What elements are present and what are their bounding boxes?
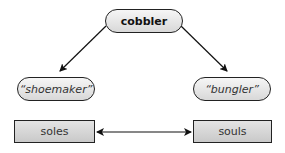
node-shoemaker-label: “shoemaker” <box>20 83 93 96</box>
arrow-cobbler-to-bungler <box>181 26 227 71</box>
node-soles-label: soles <box>40 125 68 138</box>
node-bungler-label: “bungler” <box>205 83 259 96</box>
node-shoemaker: “shoemaker” <box>17 77 95 101</box>
node-cobbler: cobbler <box>105 9 183 33</box>
node-souls: souls <box>193 120 272 143</box>
node-soles: soles <box>14 120 95 143</box>
node-bungler: “bungler” <box>193 77 271 101</box>
node-cobbler-label: cobbler <box>121 15 167 28</box>
node-souls-label: souls <box>218 125 246 138</box>
arrow-cobbler-to-shoemaker <box>60 26 106 71</box>
